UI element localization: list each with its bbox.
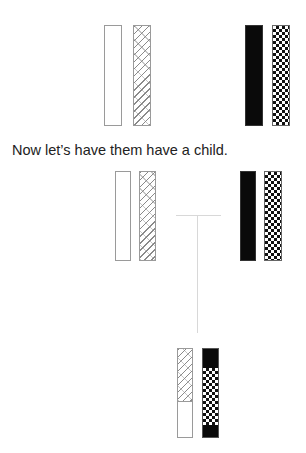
child-chromosome-1 [177,348,193,438]
second-parent-b-black-chromosome [240,171,256,261]
caption-text: Now let’s have them have a child. [12,142,228,158]
child-chromosome-2-black-bottom-segment [203,425,218,438]
second-parent-a-hatched-chromosome [139,171,156,261]
second-parent-a-white-chromosome [115,171,131,261]
child-chromosome-2 [202,348,219,438]
second-parent-b-checkered-chromosome [264,171,282,261]
top-parent-a-hatched-chromosome [133,25,151,126]
connector-vertical-line [197,215,198,333]
top-parent-b-black-chromosome [245,25,263,126]
top-parent-a-white-chromosome [104,25,122,126]
top-parent-b-checkered-chromosome [272,25,290,126]
child-chromosome-1-white-segment [178,401,192,438]
child-chromosome-1-hatched-segment [178,349,192,401]
child-chromosome-2-black-top-segment [203,349,218,368]
child-chromosome-2-checkered-segment [203,368,218,425]
connector-horizontal-line [176,215,221,216]
